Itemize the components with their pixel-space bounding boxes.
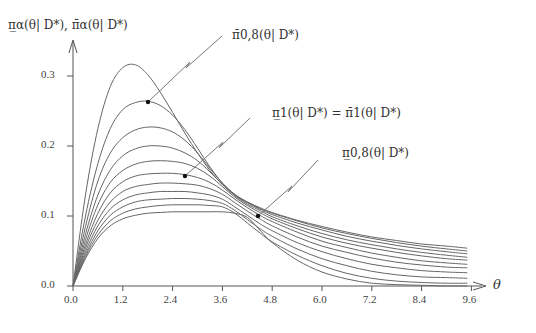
x-tick-label: 4.8 (263, 293, 277, 305)
x-tick-label: 0.0 (64, 293, 78, 305)
density-curve (73, 183, 467, 286)
marker-dot (146, 100, 150, 104)
leader-line-2 (185, 118, 250, 176)
y-axis-label: π̲α(θ| D*), π̄α(θ| D*) (8, 18, 128, 32)
annotation-label-lower-0-8: π̲0,8(θ| D*) (342, 146, 409, 160)
curves (73, 64, 467, 286)
plot-area (0, 0, 536, 333)
y-tick-label: 0.0 (41, 278, 55, 290)
density-curve (73, 212, 467, 286)
density-curve (73, 101, 467, 286)
annotation-label-alpha-1: π̲1(θ| D*) = π̄1(θ| D*) (272, 106, 401, 120)
y-tick-label: 0.3 (41, 68, 55, 80)
density-curve (73, 205, 467, 286)
x-tick-label: 3.6 (213, 293, 227, 305)
x-tick-label: 1.2 (114, 293, 128, 305)
density-curve (73, 64, 467, 286)
y-tick-label: 0.2 (41, 138, 55, 150)
x-tick-label: 6.0 (313, 293, 327, 305)
ticks (67, 76, 471, 291)
marker-dot (183, 174, 187, 178)
annotation-leaders (148, 36, 318, 216)
marker-dot (256, 214, 260, 218)
annotation-label-upper-0-8: π̄0,8(θ| D*) (232, 28, 299, 42)
x-tick-label: 9.6 (462, 293, 476, 305)
leader-line-1 (148, 36, 222, 102)
x-axis-label: θ (493, 277, 501, 292)
x-tick-label: 7.2 (363, 293, 377, 305)
x-tick-label: 8.4 (413, 293, 427, 305)
y-tick-label: 0.1 (41, 208, 55, 220)
density-curve (73, 161, 467, 286)
x-tick-label: 2.4 (164, 293, 178, 305)
leader-line-3 (258, 160, 318, 216)
